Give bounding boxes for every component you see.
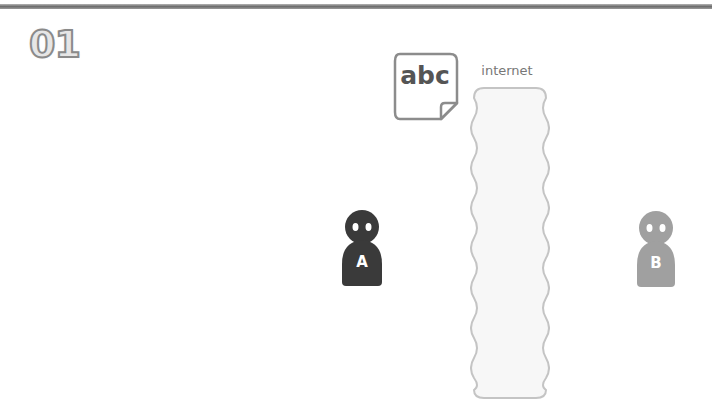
internet-cloud-icon bbox=[470, 86, 550, 402]
person-a-label: A bbox=[339, 253, 385, 271]
person-icon bbox=[633, 210, 679, 288]
person-icon bbox=[339, 210, 385, 288]
document-text: abc bbox=[392, 61, 458, 90]
document-icon: abc bbox=[392, 51, 464, 123]
person-a: A bbox=[339, 210, 385, 288]
person-b-label: B bbox=[633, 254, 679, 272]
step-number: 01 bbox=[29, 22, 80, 66]
person-b: B bbox=[633, 210, 679, 288]
internet-label: internet bbox=[474, 63, 540, 78]
top-divider bbox=[0, 4, 712, 9]
